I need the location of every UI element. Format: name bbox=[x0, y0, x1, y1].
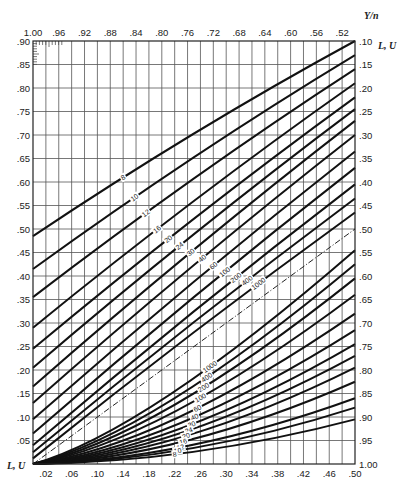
right-tick-label: .95 bbox=[359, 435, 372, 446]
right-tick-label: .25 bbox=[359, 106, 372, 117]
left-tick-label: .10 bbox=[17, 412, 30, 423]
right-tick-label: .55 bbox=[359, 247, 372, 258]
upper-curve bbox=[33, 69, 355, 297]
bottom-tick-label: .38 bbox=[271, 468, 284, 479]
top-axis-title: Y/n bbox=[364, 10, 379, 21]
bottom-tick-label: .50 bbox=[348, 468, 361, 479]
right-tick-label: .15 bbox=[359, 59, 372, 70]
left-tick-label: .70 bbox=[17, 130, 30, 141]
left-tick-label: .65 bbox=[17, 153, 30, 164]
upper-curve-label: 10 bbox=[128, 191, 141, 203]
minor-ticks bbox=[33, 41, 62, 64]
right-tick-label: .45 bbox=[359, 200, 372, 211]
left-axis-title: L, U bbox=[6, 460, 26, 471]
bottom-tick-label: .06 bbox=[65, 468, 78, 479]
top-tick-label: .64 bbox=[258, 27, 271, 38]
left-tick-label: .85 bbox=[17, 59, 30, 70]
left-tick-label: .90 bbox=[17, 36, 30, 47]
top-tick-label: .68 bbox=[232, 27, 245, 38]
left-tick-label: .35 bbox=[17, 294, 30, 305]
right-tick-label: .75 bbox=[359, 341, 372, 352]
bottom-tick-label: .14 bbox=[117, 468, 130, 479]
right-tick-label: .50 bbox=[359, 224, 372, 235]
bottom-tick-label: .46 bbox=[323, 468, 336, 479]
top-tick-label: .52 bbox=[336, 27, 349, 38]
right-axis-title: L, U bbox=[377, 40, 397, 51]
left-tick-label: .50 bbox=[17, 224, 30, 235]
top-tick-label: .60 bbox=[284, 27, 297, 38]
top-tick-label: .72 bbox=[207, 27, 220, 38]
top-tick-label: .76 bbox=[181, 27, 194, 38]
bottom-tick-label: .02 bbox=[39, 468, 52, 479]
right-tick-label: .80 bbox=[359, 365, 372, 376]
lower-curve bbox=[33, 314, 355, 464]
bottom-tick-label: .10 bbox=[91, 468, 104, 479]
right-tick-label: .65 bbox=[359, 294, 372, 305]
lower-curve-label: 8 bbox=[171, 450, 178, 459]
bottom-tick-label: .18 bbox=[142, 468, 155, 479]
left-tick-label: .15 bbox=[17, 388, 30, 399]
top-tick-label: .92 bbox=[78, 27, 91, 38]
top-tick-label: .80 bbox=[155, 27, 168, 38]
top-tick-label: .84 bbox=[129, 27, 142, 38]
bottom-tick-label: .26 bbox=[194, 468, 207, 479]
right-tick-label: .30 bbox=[359, 130, 372, 141]
left-tick-label: .05 bbox=[17, 435, 30, 446]
bottom-tick-label: .34 bbox=[245, 468, 258, 479]
right-tick-label: .85 bbox=[359, 388, 372, 399]
right-tick-label: .70 bbox=[359, 318, 372, 329]
left-tick-label: .45 bbox=[17, 247, 30, 258]
left-tick-label: .20 bbox=[17, 365, 30, 376]
left-tick-label: .25 bbox=[17, 341, 30, 352]
right-tick-label: 1.00 bbox=[359, 459, 378, 470]
top-tick-label: .56 bbox=[310, 27, 323, 38]
upper-curve-label: 8 bbox=[118, 172, 127, 182]
right-tick-label: .35 bbox=[359, 153, 372, 164]
left-tick-label: .80 bbox=[17, 83, 30, 94]
right-tick-label: .20 bbox=[359, 83, 372, 94]
right-tick-label: .60 bbox=[359, 271, 372, 282]
left-tick-label: .55 bbox=[17, 200, 30, 211]
bottom-tick-label: .22 bbox=[168, 468, 181, 479]
top-tick-label: .88 bbox=[104, 27, 117, 38]
left-tick-label: .30 bbox=[17, 318, 30, 329]
bottom-tick-label: .42 bbox=[297, 468, 310, 479]
top-tick-label: .96 bbox=[52, 27, 65, 38]
left-tick-label: .60 bbox=[17, 177, 30, 188]
right-tick-label: .40 bbox=[359, 177, 372, 188]
upper-curve bbox=[33, 55, 355, 269]
upper-curve bbox=[33, 135, 355, 403]
right-tick-label: .90 bbox=[359, 412, 372, 423]
bottom-tick-label: .30 bbox=[220, 468, 233, 479]
chart: 8101216202430406010020040010001000400200… bbox=[0, 0, 417, 479]
left-tick-label: .40 bbox=[17, 271, 30, 282]
right-tick-label: .10 bbox=[359, 36, 372, 47]
left-tick-label: .75 bbox=[17, 106, 30, 117]
